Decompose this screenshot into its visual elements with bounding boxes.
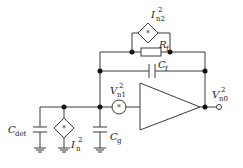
svg-text:n: n [76, 145, 81, 153]
asterisk-icon: * [117, 103, 121, 112]
in-noise-branch: * I n 2 [54, 107, 82, 153]
circuit-diagram: * I n2 2 R f C f * V n1 2 V n0 2 [0, 0, 243, 168]
resistor-rf-icon [141, 48, 161, 56]
node [203, 69, 208, 74]
node [203, 105, 208, 110]
cf-branch: C f [98, 59, 208, 78]
input-line: * V n1 2 [40, 82, 140, 114]
svg-text:det: det [15, 130, 27, 138]
rf-branch [100, 48, 205, 107]
svg-text:2: 2 [78, 136, 82, 144]
svg-text:n0: n0 [219, 95, 228, 103]
svg-text:g: g [117, 137, 122, 145]
svg-text:2: 2 [119, 82, 123, 90]
node [98, 69, 103, 74]
output: V n0 2 [200, 86, 228, 110]
ground-icon [34, 148, 46, 152]
svg-text:f: f [165, 65, 169, 73]
opamp-triangle-icon [140, 83, 200, 130]
ground-icon [94, 148, 106, 152]
asterisk-icon: * [146, 29, 150, 38]
svg-text:2: 2 [221, 86, 225, 94]
output-terminal-icon [217, 105, 222, 110]
asterisk-icon: * [62, 124, 66, 133]
svg-text:n1: n1 [117, 91, 126, 99]
schematic: * I n2 2 R f C f * V n1 2 V n0 2 [0, 0, 243, 168]
cdet-branch: C det [8, 107, 47, 152]
label-in2-sup: 2 [158, 6, 162, 14]
ground-icon [58, 148, 70, 152]
label-in2-sub: n2 [156, 15, 165, 23]
